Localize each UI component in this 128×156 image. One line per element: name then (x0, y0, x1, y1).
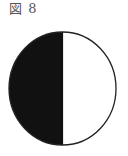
half-shaded-circle-diagram (0, 0, 128, 156)
